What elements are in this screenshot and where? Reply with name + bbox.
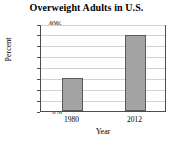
x-axis-tick-label: 1980 bbox=[50, 115, 94, 124]
gridline bbox=[41, 101, 165, 102]
bar bbox=[62, 78, 83, 111]
gridline bbox=[41, 68, 165, 69]
gridline bbox=[41, 46, 165, 47]
gridline bbox=[41, 57, 165, 58]
plot-area bbox=[40, 25, 166, 112]
gridline bbox=[41, 25, 165, 26]
gridline bbox=[41, 35, 165, 36]
x-axis-tick-label: 2012 bbox=[113, 115, 157, 124]
bar bbox=[125, 35, 146, 111]
gridline bbox=[41, 90, 165, 91]
chart-title: Overweight Adults in U.S. bbox=[0, 2, 173, 13]
y-axis-title: Percent bbox=[4, 23, 13, 77]
bar-chart-figure: Overweight Adults in U.S. Percent 0%5%10… bbox=[0, 0, 173, 143]
gridline bbox=[41, 79, 165, 80]
x-axis-title: Year bbox=[40, 127, 166, 136]
